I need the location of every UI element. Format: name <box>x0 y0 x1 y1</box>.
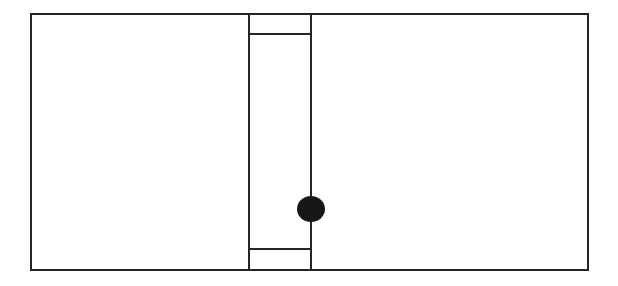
center-dot <box>297 196 325 222</box>
diagram-canvas <box>0 0 618 286</box>
canvas-background <box>0 0 618 286</box>
diagram-svg <box>0 0 618 286</box>
